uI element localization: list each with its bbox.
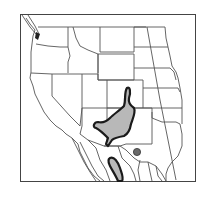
wa-or-border [36,44,68,47]
or-south-border [31,73,82,74]
southern-range-area [109,158,123,181]
coahuila-line [138,160,140,181]
map-canvas [0,0,203,199]
nevada [52,74,82,126]
map-frame [21,15,196,182]
meridian-line [147,27,176,180]
id-mt-border [73,27,98,73]
disjunct-locality-dot [133,148,140,155]
eastern-state-edge [168,47,182,124]
wyoming [98,54,134,80]
state-borders [22,15,182,181]
coastline [26,18,100,181]
id-west-border [68,27,70,73]
nuevo-leon-line [148,162,152,181]
north-dakota-east [134,27,168,47]
ne-ks-border [143,88,180,92]
montana [100,27,134,52]
ok-tx-border [152,112,180,124]
utah [82,74,107,108]
texas-coast [166,124,182,181]
main-range-area [94,88,135,146]
